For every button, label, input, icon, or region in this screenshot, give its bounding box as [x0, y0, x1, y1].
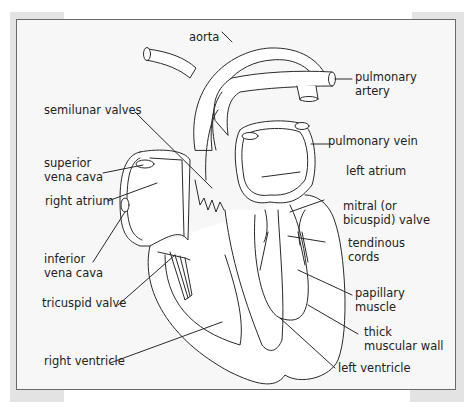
- label-right-ventricle: right ventricle: [44, 355, 125, 368]
- label-superior-vena-cava-line1: superior: [44, 157, 91, 170]
- label-left-ventricle: left ventricle: [338, 362, 410, 375]
- label-right-atrium: right atrium: [45, 195, 114, 208]
- aorta-branch: [146, 49, 196, 78]
- label-semilunar-valves: semilunar valves: [44, 104, 142, 117]
- aorta-branch-opening: [144, 48, 151, 61]
- label-tricuspid-valve: tricuspid valve: [42, 297, 126, 310]
- pulmonary-vein-opening-1: [242, 133, 258, 140]
- label-inferior-vena-cava-line2: vena cava: [44, 267, 103, 280]
- label-aorta: aorta: [189, 31, 219, 44]
- label-mitral-valve-line1: mitral (or: [343, 200, 397, 213]
- inferior-vena-cava-opening: [121, 198, 129, 212]
- label-mitral-valve-line2: bicuspid) valve: [343, 214, 430, 227]
- label-tendinous-cords-line1: tendinous: [348, 237, 405, 250]
- pulmonary-vein-opening-2: [295, 123, 309, 130]
- right-atrium: [120, 150, 190, 246]
- label-papillary-muscle-line1: papillary: [355, 287, 405, 300]
- semilunar-valve: [195, 180, 224, 212]
- label-pulmonary-vein: pulmonary vein: [328, 135, 418, 148]
- label-left-atrium: left atrium: [346, 165, 406, 178]
- label-pulmonary-artery-line1: pulmonary: [355, 71, 417, 84]
- label-inferior-vena-cava-line1: inferior: [44, 253, 85, 266]
- label-superior-vena-cava-line2: vena cava: [44, 171, 103, 184]
- label-papillary-muscle-line2: muscle: [355, 301, 396, 314]
- label-pulmonary-artery-line2: artery: [355, 85, 390, 98]
- label-thick-muscular-wall-line2: muscular wall: [364, 340, 444, 353]
- label-tendinous-cords-line2: cords: [348, 251, 379, 264]
- label-thick-muscular-wall-line1: thick: [364, 326, 392, 339]
- superior-vena-cava-opening: [136, 160, 154, 168]
- pulmonary-artery-opening: [329, 72, 336, 86]
